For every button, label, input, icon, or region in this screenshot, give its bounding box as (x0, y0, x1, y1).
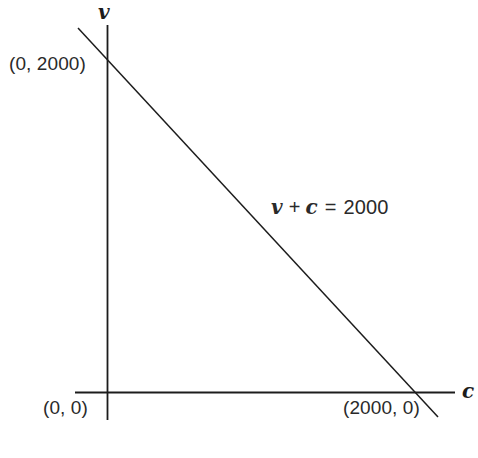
constraint-equation-label: v+c=2000 (271, 197, 388, 217)
origin-label: (0, 0) (43, 398, 88, 417)
line-graph-figure: v c (0, 2000) (0, 0) (2000, 0) v+c=2000 (0, 0, 478, 458)
constraint-line (78, 28, 438, 417)
x-axis-label: c (462, 381, 474, 401)
y-axis-label: v (98, 2, 110, 22)
equation-variable-v: v (271, 195, 283, 219)
equation-plus-operator: + (289, 196, 301, 218)
equation-variable-c: c (306, 195, 318, 219)
equation-right-hand-value: 2000 (344, 196, 389, 218)
x-intercept-label: (2000, 0) (343, 398, 420, 417)
equation-equals-operator: = (325, 196, 337, 218)
y-intercept-label: (0, 2000) (9, 54, 86, 73)
